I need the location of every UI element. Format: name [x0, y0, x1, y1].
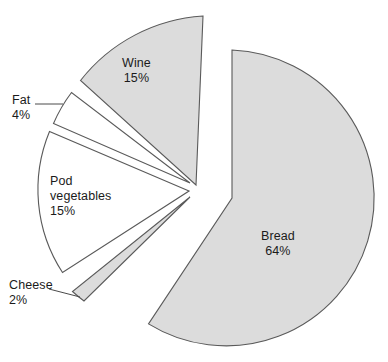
pie-label-fat-name: Fat [12, 93, 30, 108]
pie-label-pod-vegetables-name-line1: Pod [50, 174, 111, 189]
pie-label-bread: Bread 64% [261, 229, 295, 259]
pie-label-fat-value: 4% [12, 108, 30, 123]
pie-label-fat: Fat 4% [12, 93, 30, 123]
pie-label-bread-value: 64% [261, 244, 295, 259]
pie-label-pod-vegetables: Pod vegetables 15% [50, 174, 111, 219]
pie-label-cheese-value: 2% [9, 293, 53, 308]
pie-chart: Bread 64% Wine 15% Pod vegetables 15% Fa… [0, 0, 388, 362]
pie-label-wine-value: 15% [122, 71, 151, 86]
pie-label-bread-name: Bread [261, 229, 295, 244]
pie-label-cheese-name: Cheese [9, 278, 53, 293]
pie-label-wine: Wine 15% [122, 56, 151, 86]
pie-label-wine-name: Wine [122, 56, 151, 71]
pie-label-cheese: Cheese 2% [9, 278, 53, 308]
pie-label-pod-vegetables-name-line2: vegetables [50, 189, 111, 204]
pie-label-pod-vegetables-value: 15% [50, 204, 111, 219]
